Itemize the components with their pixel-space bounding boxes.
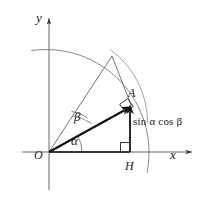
- x-axis-label: x: [170, 148, 176, 161]
- right-angle-marks-group: [120, 99, 134, 152]
- segment-OP: [49, 56, 112, 152]
- y-axis-label: y: [36, 11, 42, 24]
- angle-label-beta: β: [74, 110, 80, 123]
- sin-alpha-cos-beta-label: sin α cos β: [133, 116, 182, 127]
- diagram-canvas: [0, 0, 202, 197]
- angle-label-alpha: α: [71, 134, 78, 147]
- construction-lines-group: [49, 56, 132, 152]
- bold-vectors-group: [49, 105, 134, 153]
- point-label-H: H: [125, 160, 134, 172]
- angle-arc-alpha: [78, 136, 82, 152]
- right-angle-mark-H: [121, 143, 131, 153]
- point-label-A: A: [128, 87, 135, 99]
- point-label-O: O: [34, 149, 43, 161]
- geometry-figure: y x O H A α β sin α cos β: [0, 0, 202, 197]
- axes-group: [22, 18, 192, 190]
